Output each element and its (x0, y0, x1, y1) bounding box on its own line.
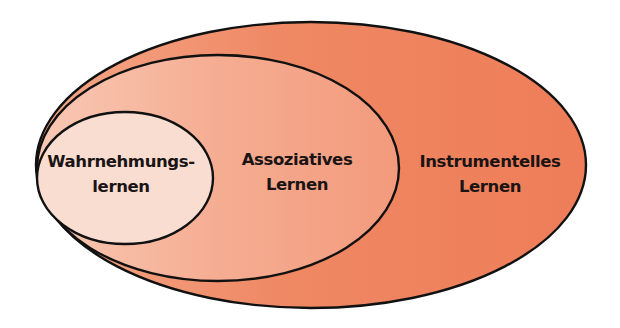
label-line-2: Lernen (266, 175, 328, 194)
nested-learning-diagram: Wahrnehmungs- lernen Assoziatives Lernen… (0, 0, 620, 328)
label-line-1: Instrumentelles (419, 152, 561, 171)
label-line-2: lernen (92, 177, 149, 196)
label-line-1: Wahrnehmungs- (47, 152, 194, 171)
label-line-1: Assoziatives (242, 150, 353, 169)
label-line-2: Lernen (459, 177, 521, 196)
